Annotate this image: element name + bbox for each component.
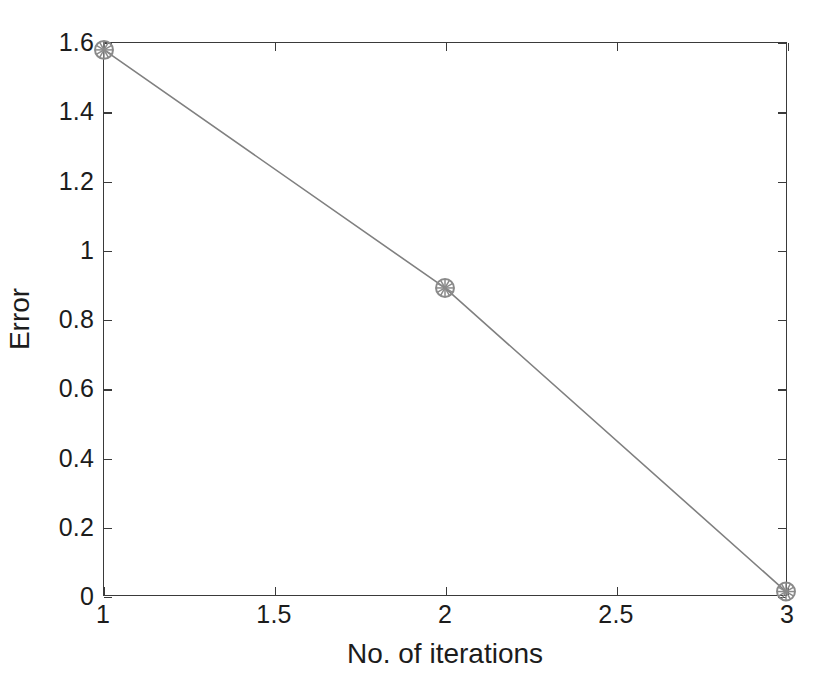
y-tick-mark — [104, 597, 112, 598]
y-axis-title: Error — [0, 42, 40, 596]
x-tick-label: 1.5 — [256, 600, 291, 629]
x-tick-label: 2 — [438, 600, 452, 629]
data-point-marker — [777, 583, 795, 601]
y-tick-label: 0.2 — [59, 512, 94, 541]
plot-area — [103, 42, 787, 596]
y-tick-label: 1 — [80, 235, 94, 264]
data-point-marker — [436, 279, 454, 297]
data-series-layer — [104, 43, 786, 595]
y-tick-label: 0.6 — [59, 374, 94, 403]
x-axis-title: No. of iterations — [103, 638, 787, 670]
y-axis-title-text: Error — [4, 288, 36, 350]
y-tick-label: 0.8 — [59, 305, 94, 334]
y-tick-label: 1.4 — [59, 97, 94, 126]
x-tick-mark — [788, 43, 789, 51]
x-tick-label: 1 — [96, 600, 110, 629]
y-tick-label: 1.6 — [59, 28, 94, 57]
y-tick-label: 1.2 — [59, 166, 94, 195]
y-tick-label: 0.4 — [59, 443, 94, 472]
series-error — [95, 41, 795, 601]
x-tick-label: 3 — [780, 600, 794, 629]
figure-canvas: Error 00.20.40.60.811.21.41.6 11.522.53 … — [0, 0, 834, 691]
x-tick-label: 2.5 — [598, 600, 633, 629]
x-axis-title-text: No. of iterations — [347, 638, 543, 669]
data-line — [104, 50, 786, 592]
y-tick-label: 0 — [80, 582, 94, 611]
data-point-marker — [95, 41, 113, 59]
